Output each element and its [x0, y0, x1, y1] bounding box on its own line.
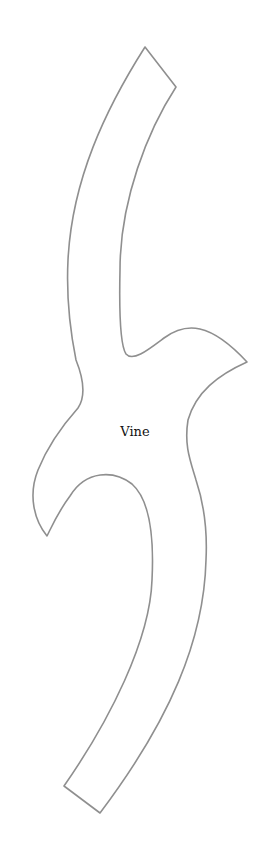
diagram-canvas: Vine: [0, 0, 270, 858]
vine-shape[interactable]: [0, 0, 270, 858]
vine-outline: [33, 47, 247, 813]
